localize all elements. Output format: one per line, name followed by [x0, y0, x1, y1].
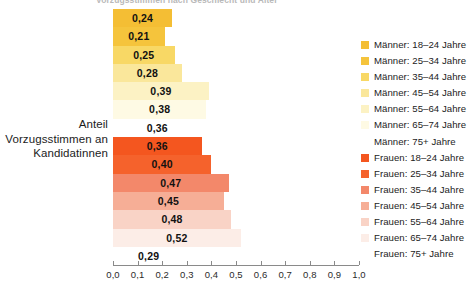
- plot-area: 0,240,210,250,280,390,380,360,360,400,47…: [113, 9, 359, 261]
- bar-row: 0,52: [113, 229, 359, 247]
- legend-item[interactable]: Frauen: 18–24 Jahre: [361, 150, 472, 166]
- legend-item[interactable]: Frauen: 25–34 Jahre: [361, 166, 472, 182]
- legend-item-label: Männer: 55–64 Jahre: [374, 101, 466, 117]
- bar-row: 0,24: [113, 9, 359, 27]
- legend-item[interactable]: Frauen: 35–44 Jahre: [361, 182, 472, 198]
- legend-item[interactable]: Frauen: 65–74 Jahre: [361, 230, 472, 246]
- bar-value-label: 0,36: [147, 137, 168, 155]
- bar-row: 0,45: [113, 192, 359, 210]
- legend-item[interactable]: Frauen: 75+ Jahre: [361, 246, 472, 262]
- legend-item-label: Männer: 75+ Jahre: [374, 134, 456, 150]
- x-axis-tick: [359, 261, 360, 265]
- x-axis-tick-label: 0,2: [155, 269, 169, 280]
- legend-item-label: Männer: 35–44 Jahre: [374, 69, 466, 85]
- legend-item[interactable]: Männer: 35–44 Jahre: [361, 69, 472, 85]
- bar-value-label: 0,25: [133, 46, 154, 64]
- legend-color-swatch: [361, 89, 369, 97]
- bar-row: 0,28: [113, 64, 359, 82]
- legend-color-swatch: [361, 186, 369, 194]
- x-axis-tick-label: 0,6: [254, 269, 268, 280]
- x-axis: 0,00,10,20,30,40,50,60,70,80,91,0: [113, 265, 359, 266]
- bar-row: 0,40: [113, 155, 359, 173]
- y-axis-label-line-2: Vorzugsstimmen an: [0, 132, 108, 147]
- x-axis-tick: [310, 261, 311, 265]
- x-axis-tick: [285, 261, 286, 265]
- bar-value-label: 0,39: [150, 82, 171, 100]
- bar-row: 0,36: [113, 119, 359, 137]
- legend-item[interactable]: Männer: 25–34 Jahre: [361, 53, 472, 69]
- y-axis-label-line-3: Kandidatinnen: [0, 146, 108, 161]
- legend-color-swatch: [361, 121, 369, 129]
- legend-item-label: Frauen: 18–24 Jahre: [374, 150, 464, 166]
- bar-value-label: 0,21: [128, 27, 149, 45]
- bar-value-label: 0,36: [147, 119, 168, 137]
- legend-color-swatch: [361, 234, 369, 242]
- bar-value-label: 0,52: [166, 229, 187, 247]
- bar-row: 0,38: [113, 100, 359, 118]
- x-axis-tick-label: 1,0: [352, 269, 366, 280]
- chart-legend: Männer: 18–24 JahreMänner: 25–34 JahreMä…: [361, 37, 472, 262]
- x-axis-tick-label: 0,5: [229, 269, 243, 280]
- bar-row: 0,21: [113, 27, 359, 45]
- x-axis-tick: [261, 261, 262, 265]
- legend-item[interactable]: Männer: 75+ Jahre: [361, 134, 472, 150]
- chart-title-text: Vorzugsstimmen nach Geschlecht und Alter: [96, 0, 406, 5]
- bar-value-label: 0,24: [132, 9, 153, 27]
- x-axis-tick: [187, 261, 188, 265]
- x-axis-tick-label: 0,7: [278, 269, 292, 280]
- legend-item-label: Frauen: 65–74 Jahre: [374, 230, 464, 246]
- bar-value-label: 0,47: [160, 174, 181, 192]
- legend-item-label: Frauen: 25–34 Jahre: [374, 166, 464, 182]
- horizontal-bar-chart: Vorzugsstimmen nach Geschlecht und Alter…: [0, 0, 472, 290]
- bar-value-label: 0,29: [138, 247, 159, 265]
- legend-item-label: Frauen: 55–64 Jahre: [374, 214, 464, 230]
- legend-item-label: Frauen: 75+ Jahre: [374, 246, 454, 262]
- legend-item[interactable]: Frauen: 45–54 Jahre: [361, 198, 472, 214]
- legend-item-label: Frauen: 35–44 Jahre: [374, 182, 464, 198]
- y-axis-label-line-1: Anteil: [0, 117, 108, 132]
- x-axis-tick-label: 0,3: [180, 269, 194, 280]
- x-axis-tick: [334, 261, 335, 265]
- legend-color-swatch: [361, 105, 369, 113]
- bar-value-label: 0,45: [158, 192, 179, 210]
- bar-row: 0,47: [113, 174, 359, 192]
- x-axis-tick-label: 0,9: [328, 269, 342, 280]
- legend-item-label: Männer: 45–54 Jahre: [374, 85, 466, 101]
- legend-color-swatch: [361, 218, 369, 226]
- legend-color-swatch: [361, 41, 369, 49]
- x-axis-tick: [211, 261, 212, 265]
- legend-item[interactable]: Männer: 55–64 Jahre: [361, 101, 472, 117]
- y-axis-label: Anteil Vorzugsstimmen an Kandidatinnen: [0, 117, 108, 161]
- legend-color-swatch: [361, 250, 369, 258]
- x-axis-tick-label: 0,0: [106, 269, 120, 280]
- legend-item[interactable]: Frauen: 55–64 Jahre: [361, 214, 472, 230]
- legend-color-swatch: [361, 170, 369, 178]
- chart-title-clipped: Vorzugsstimmen nach Geschlecht und Alter: [96, 0, 406, 7]
- bar-row: 0,39: [113, 82, 359, 100]
- bar-row: 0,48: [113, 210, 359, 228]
- legend-item[interactable]: Männer: 18–24 Jahre: [361, 37, 472, 53]
- x-axis-tick: [113, 261, 114, 265]
- bar-value-label: 0,48: [161, 210, 182, 228]
- bar-row: 0,25: [113, 46, 359, 64]
- bar-value-label: 0,28: [137, 64, 158, 82]
- x-axis-tick: [162, 261, 163, 265]
- bar-value-label: 0,40: [152, 155, 173, 173]
- legend-item-label: Männer: 65–74 Jahre: [374, 117, 466, 133]
- legend-color-swatch: [361, 202, 369, 210]
- legend-color-swatch: [361, 73, 369, 81]
- legend-item-label: Männer: 25–34 Jahre: [374, 53, 466, 69]
- bar-row: 0,36: [113, 137, 359, 155]
- x-axis-tick-label: 0,4: [205, 269, 219, 280]
- legend-item[interactable]: Männer: 45–54 Jahre: [361, 85, 472, 101]
- x-axis-tick: [236, 261, 237, 265]
- legend-color-swatch: [361, 138, 369, 146]
- legend-item-label: Männer: 18–24 Jahre: [374, 37, 466, 53]
- legend-color-swatch: [361, 57, 369, 65]
- legend-item[interactable]: Männer: 65–74 Jahre: [361, 117, 472, 133]
- legend-item-label: Frauen: 45–54 Jahre: [374, 198, 464, 214]
- x-axis-tick-label: 0,8: [303, 269, 317, 280]
- bar-value-label: 0,38: [149, 100, 170, 118]
- legend-color-swatch: [361, 154, 369, 162]
- x-axis-tick: [138, 261, 139, 265]
